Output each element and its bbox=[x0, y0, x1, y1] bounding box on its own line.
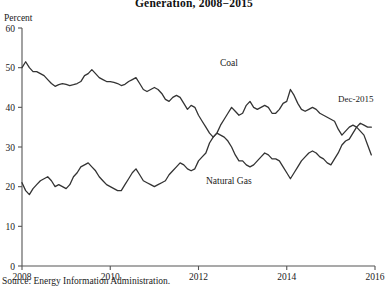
series-label-coal: Coal bbox=[220, 58, 238, 68]
x-axis-tick-label: 2012 bbox=[189, 272, 208, 282]
chart-figure: Generation, 2008−2015 Percent 0102030405… bbox=[0, 0, 388, 292]
last-point-annotation: Dec-2015 bbox=[338, 94, 374, 104]
x-axis-tick-label: 2016 bbox=[366, 272, 385, 282]
series-line-natural-gas bbox=[22, 123, 371, 194]
y-axis-tick-label: 0 bbox=[10, 262, 15, 272]
series-line-coal bbox=[22, 62, 371, 155]
plot-area: 010203040506020082010201220142016 bbox=[0, 0, 388, 292]
source-note: Source: Energy Information Administratio… bbox=[2, 276, 170, 286]
y-axis-tick-label: 50 bbox=[6, 63, 16, 73]
x-axis-tick-label: 2014 bbox=[277, 272, 296, 282]
y-axis-tick-label: 10 bbox=[6, 222, 16, 232]
y-axis-tick-label: 30 bbox=[6, 143, 16, 153]
y-axis-tick-label: 20 bbox=[6, 182, 16, 192]
y-axis-tick-label: 40 bbox=[6, 103, 16, 113]
y-axis-tick-label: 60 bbox=[6, 24, 16, 34]
series-label-natural-gas: Natural Gas bbox=[206, 176, 252, 186]
